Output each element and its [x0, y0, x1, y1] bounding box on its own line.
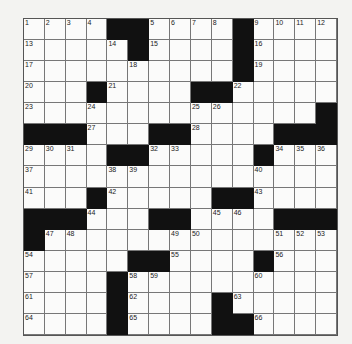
- grid-cell[interactable]: 63: [233, 293, 254, 314]
- grid-cell[interactable]: 36: [316, 145, 337, 166]
- grid-cell[interactable]: [149, 188, 170, 209]
- grid-cell[interactable]: 21: [107, 82, 128, 103]
- grid-cell[interactable]: 52: [295, 230, 316, 251]
- grid-cell[interactable]: [107, 124, 128, 145]
- grid-cell[interactable]: [87, 251, 108, 272]
- grid-cell[interactable]: 28: [191, 124, 212, 145]
- grid-cell[interactable]: 1: [24, 19, 45, 40]
- grid-cell[interactable]: [66, 251, 87, 272]
- grid-cell[interactable]: [45, 188, 66, 209]
- grid-cell[interactable]: 8: [212, 19, 233, 40]
- grid-cell[interactable]: 25: [191, 103, 212, 124]
- grid-cell[interactable]: [45, 103, 66, 124]
- grid-cell[interactable]: 4: [87, 19, 108, 40]
- grid-cell[interactable]: [316, 293, 337, 314]
- grid-cell[interactable]: 31: [66, 145, 87, 166]
- grid-cell[interactable]: [107, 230, 128, 251]
- grid-cell[interactable]: 7: [191, 19, 212, 40]
- grid-cell[interactable]: [233, 103, 254, 124]
- grid-cell[interactable]: [233, 145, 254, 166]
- grid-cell[interactable]: 24: [87, 103, 108, 124]
- grid-cell[interactable]: [170, 166, 191, 187]
- grid-cell[interactable]: [149, 103, 170, 124]
- grid-cell[interactable]: [274, 82, 295, 103]
- grid-cell[interactable]: 15: [149, 40, 170, 61]
- grid-cell[interactable]: [212, 230, 233, 251]
- grid-cell[interactable]: 50: [191, 230, 212, 251]
- grid-cell[interactable]: [191, 272, 212, 293]
- grid-cell[interactable]: [274, 61, 295, 82]
- grid-cell[interactable]: [128, 82, 149, 103]
- grid-cell[interactable]: 56: [274, 251, 295, 272]
- grid-cell[interactable]: [87, 40, 108, 61]
- grid-cell[interactable]: [295, 188, 316, 209]
- grid-cell[interactable]: 2: [45, 19, 66, 40]
- grid-cell[interactable]: [87, 166, 108, 187]
- grid-cell[interactable]: 37: [24, 166, 45, 187]
- grid-cell[interactable]: [128, 230, 149, 251]
- grid-cell[interactable]: 48: [66, 230, 87, 251]
- grid-cell[interactable]: [233, 251, 254, 272]
- grid-cell[interactable]: [191, 40, 212, 61]
- grid-cell[interactable]: [233, 230, 254, 251]
- grid-cell[interactable]: [66, 61, 87, 82]
- grid-cell[interactable]: [191, 188, 212, 209]
- grid-cell[interactable]: 60: [254, 272, 275, 293]
- grid-cell[interactable]: [87, 314, 108, 335]
- grid-cell[interactable]: [212, 124, 233, 145]
- grid-cell[interactable]: 46: [233, 209, 254, 230]
- grid-cell[interactable]: 53: [316, 230, 337, 251]
- grid-cell[interactable]: [66, 103, 87, 124]
- grid-cell[interactable]: 39: [128, 166, 149, 187]
- grid-cell[interactable]: [295, 314, 316, 335]
- grid-cell[interactable]: [274, 166, 295, 187]
- grid-cell[interactable]: [295, 61, 316, 82]
- grid-cell[interactable]: [107, 61, 128, 82]
- grid-cell[interactable]: 12: [316, 19, 337, 40]
- grid-cell[interactable]: [87, 272, 108, 293]
- grid-cell[interactable]: [274, 314, 295, 335]
- grid-cell[interactable]: [66, 166, 87, 187]
- grid-cell[interactable]: 32: [149, 145, 170, 166]
- grid-cell[interactable]: 9: [254, 19, 275, 40]
- grid-cell[interactable]: [66, 272, 87, 293]
- grid-cell[interactable]: [254, 293, 275, 314]
- grid-cell[interactable]: [254, 124, 275, 145]
- grid-cell[interactable]: 13: [24, 40, 45, 61]
- grid-cell[interactable]: 26: [212, 103, 233, 124]
- grid-cell[interactable]: [274, 103, 295, 124]
- grid-cell[interactable]: [170, 40, 191, 61]
- grid-cell[interactable]: 22: [233, 82, 254, 103]
- grid-cell[interactable]: 58: [128, 272, 149, 293]
- grid-cell[interactable]: 47: [45, 230, 66, 251]
- grid-cell[interactable]: [87, 230, 108, 251]
- grid-cell[interactable]: [66, 293, 87, 314]
- grid-cell[interactable]: [316, 61, 337, 82]
- grid-cell[interactable]: 55: [170, 251, 191, 272]
- grid-cell[interactable]: [274, 40, 295, 61]
- grid-cell[interactable]: [128, 188, 149, 209]
- grid-cell[interactable]: 23: [24, 103, 45, 124]
- grid-cell[interactable]: 59: [149, 272, 170, 293]
- grid-cell[interactable]: [212, 251, 233, 272]
- grid-cell[interactable]: [254, 82, 275, 103]
- grid-cell[interactable]: 3: [66, 19, 87, 40]
- grid-cell[interactable]: [66, 82, 87, 103]
- grid-cell[interactable]: [128, 209, 149, 230]
- grid-cell[interactable]: 35: [295, 145, 316, 166]
- grid-cell[interactable]: [212, 145, 233, 166]
- grid-cell[interactable]: [66, 188, 87, 209]
- grid-cell[interactable]: 38: [107, 166, 128, 187]
- grid-cell[interactable]: 49: [170, 230, 191, 251]
- grid-cell[interactable]: 43: [254, 188, 275, 209]
- grid-cell[interactable]: [233, 166, 254, 187]
- grid-cell[interactable]: 40: [254, 166, 275, 187]
- grid-cell[interactable]: [45, 314, 66, 335]
- grid-cell[interactable]: 41: [24, 188, 45, 209]
- grid-cell[interactable]: 45: [212, 209, 233, 230]
- grid-cell[interactable]: [87, 145, 108, 166]
- grid-cell[interactable]: 61: [24, 293, 45, 314]
- grid-cell[interactable]: [170, 82, 191, 103]
- grid-cell[interactable]: 30: [45, 145, 66, 166]
- grid-cell[interactable]: [149, 314, 170, 335]
